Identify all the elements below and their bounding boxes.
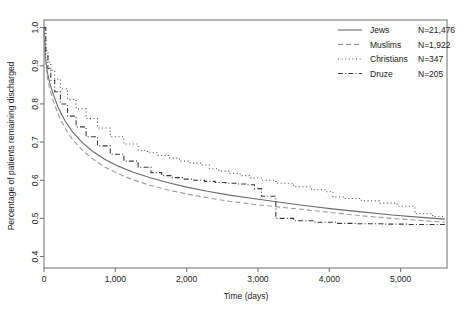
y-axis-ticks: 0.40.50.60.70.80.91.0 [30, 21, 44, 262]
y-tick-label: 0.7 [30, 136, 40, 148]
x-axis-title: Time (days) [224, 291, 269, 301]
x-tick-label: 0 [42, 274, 47, 284]
legend-label-christians: Christians [370, 54, 408, 64]
survival-curve-plot: 01,0002,0003,0004,0005,000 0.40.50.60.70… [0, 0, 464, 317]
x-tick-label: 4,000 [319, 274, 341, 284]
legend-count-christians: N=347 [418, 54, 444, 64]
y-tick-label: 0.4 [30, 250, 40, 262]
chart-legend: JewsN=21,476MuslimsN=1,922ChristiansN=34… [338, 25, 455, 79]
y-tick-label: 0.9 [30, 60, 40, 72]
x-tick-label: 2,000 [176, 274, 198, 284]
y-tick-label: 0.5 [30, 212, 40, 224]
legend-label-muslims: Muslims [370, 40, 401, 50]
x-tick-label: 1,000 [105, 274, 127, 284]
y-tick-label: 1.0 [30, 21, 40, 33]
legend-count-jews: N=21,476 [418, 25, 455, 35]
legend-count-muslims: N=1,922 [418, 40, 451, 50]
legend-count-druze: N=205 [418, 69, 444, 79]
x-tick-label: 5,000 [390, 274, 412, 284]
y-tick-label: 0.6 [30, 174, 40, 186]
x-tick-label: 3,000 [247, 274, 269, 284]
legend-label-jews: Jews [370, 25, 389, 35]
x-axis-ticks: 01,0002,0003,0004,0005,000 [42, 268, 412, 284]
legend-label-druze: Druze [370, 69, 393, 79]
y-axis-title: Percentage of patients remaining dischar… [6, 61, 16, 230]
chart-figure: 01,0002,0003,0004,0005,000 0.40.50.60.70… [0, 0, 464, 317]
y-tick-label: 0.8 [30, 98, 40, 110]
